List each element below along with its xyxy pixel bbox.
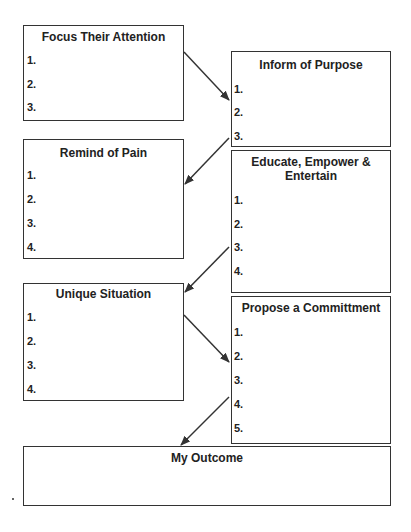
box-focus-their-attention: Focus Their Attention 1. 2. 3. [23, 25, 184, 121]
stray-mark [12, 498, 14, 500]
arrow-inform-to-pain [185, 138, 229, 184]
box-title: Educate, Empower & Entertain [232, 155, 390, 183]
list-item[interactable]: 2. [27, 77, 36, 91]
arrow-educate-to-unique [185, 247, 229, 292]
arrow-unique-to-propose [184, 315, 229, 362]
box-unique-situation: Unique Situation 1. 2. 3. 4. [23, 283, 184, 401]
list-item[interactable]: 3. [234, 373, 243, 387]
list-item[interactable]: 1. [27, 53, 36, 67]
list-item[interactable]: 2. [234, 217, 243, 231]
list-item[interactable]: 3. [234, 240, 243, 254]
list-item[interactable]: 3. [27, 358, 36, 372]
list-item[interactable]: 4. [27, 382, 36, 396]
box-propose-a-committment: Propose a Committment 1. 2. 3. 4. 5. [231, 296, 391, 444]
box-title: Focus Their Attention [24, 30, 183, 44]
box-title: My Outcome [24, 451, 390, 465]
list-item[interactable]: 3. [27, 100, 36, 114]
list-item[interactable]: 3. [234, 129, 243, 143]
list-item[interactable]: 5. [234, 421, 243, 435]
box-my-outcome[interactable]: My Outcome [23, 446, 391, 506]
list-item[interactable]: 2. [234, 349, 243, 363]
list-item[interactable]: 1. [27, 310, 36, 324]
list-item[interactable]: 4. [27, 240, 36, 254]
list-item[interactable]: 2. [27, 192, 36, 206]
list-item[interactable]: 4. [234, 264, 243, 278]
list-item[interactable]: 1. [234, 82, 243, 96]
list-item[interactable]: 1. [27, 168, 36, 182]
box-inform-of-purpose: Inform of Purpose 1. 2. 3. [231, 51, 391, 147]
list-item[interactable]: 4. [234, 397, 243, 411]
box-educate-empower-entertain: Educate, Empower & Entertain 1. 2. 3. 4. [231, 150, 391, 293]
list-item[interactable]: 2. [234, 105, 243, 119]
list-item[interactable]: 1. [234, 325, 243, 339]
box-title: Inform of Purpose [232, 58, 390, 72]
box-title: Remind of Pain [24, 146, 183, 160]
box-remind-of-pain: Remind of Pain 1. 2. 3. 4. [23, 139, 184, 259]
arrow-focus-to-inform [184, 52, 229, 100]
list-item[interactable]: 1. [234, 193, 243, 207]
box-title: Propose a Committment [232, 301, 390, 315]
list-item[interactable]: 3. [27, 216, 36, 230]
arrow-propose-to-outcome [181, 397, 229, 445]
list-item[interactable]: 2. [27, 334, 36, 348]
box-title: Unique Situation [24, 287, 183, 301]
